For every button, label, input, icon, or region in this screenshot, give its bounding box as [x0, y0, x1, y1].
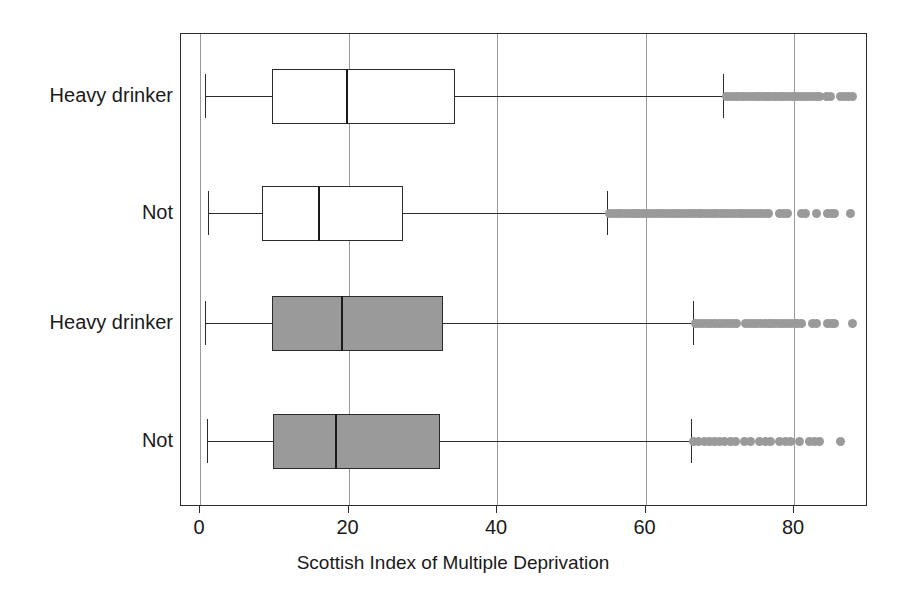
whisker-high-line [455, 96, 724, 97]
box-iqr [272, 296, 443, 351]
box-iqr [273, 414, 440, 469]
outlier-point [764, 209, 773, 218]
x-tick-20 [348, 506, 349, 513]
whisker-low-line [208, 213, 261, 214]
outlier-point [746, 437, 755, 446]
outlier-point [848, 319, 857, 328]
x-tick-label-40: 40 [466, 516, 526, 538]
median-line [318, 186, 320, 241]
outlier-point [815, 437, 824, 446]
category-label-heavy-drinker-2: Heavy drinker [50, 312, 173, 332]
median-line [335, 414, 337, 469]
gridline-0 [200, 34, 201, 505]
outlier-point [826, 92, 835, 101]
outlier-point [786, 437, 795, 446]
x-axis-title: Scottish Index of Multiple Deprivation [0, 552, 906, 574]
x-tick-40 [496, 506, 497, 513]
outlier-point [848, 92, 857, 101]
outlier-point [830, 209, 839, 218]
boxplot-figure: Heavy drinker Not Heavy drinker Not 0204… [0, 0, 906, 600]
box-iqr [272, 69, 455, 124]
outlier-point [846, 209, 855, 218]
whisker-low-cap [207, 419, 208, 463]
whisker-low-line [205, 96, 272, 97]
outlier-point [812, 209, 821, 218]
plot-area [180, 33, 867, 506]
category-label-not-1: Not [142, 202, 173, 222]
whisker-high-line [403, 213, 607, 214]
x-tick-80 [793, 506, 794, 513]
outlier-point [731, 437, 740, 446]
whisker-low-line [207, 441, 272, 442]
outlier-point [801, 209, 810, 218]
whisker-low-line [205, 323, 272, 324]
category-label-heavy-drinker-1: Heavy drinker [50, 85, 173, 105]
median-line [346, 69, 348, 124]
x-tick-label-80: 80 [763, 516, 823, 538]
whisker-low-cap [208, 191, 209, 235]
category-label-not-2: Not [142, 430, 173, 450]
gridline-40 [497, 34, 498, 505]
outlier-point [797, 319, 806, 328]
median-line [341, 296, 343, 351]
whisker-low-cap [205, 74, 206, 118]
whisker-high-line [443, 323, 693, 324]
outlier-point [795, 437, 804, 446]
x-tick-label-0: 0 [169, 516, 229, 538]
gridline-60 [646, 34, 647, 505]
outlier-point [812, 319, 821, 328]
x-tick-label-20: 20 [318, 516, 378, 538]
whisker-low-cap [205, 301, 206, 345]
outlier-point [732, 319, 741, 328]
whisker-high-line [440, 441, 691, 442]
outlier-point [836, 437, 845, 446]
x-tick-label-60: 60 [615, 516, 675, 538]
gridline-80 [794, 34, 795, 505]
outlier-point [766, 437, 775, 446]
x-tick-60 [645, 506, 646, 513]
x-tick-0 [199, 506, 200, 513]
outlier-point [830, 319, 839, 328]
outlier-point [783, 209, 792, 218]
box-iqr [262, 186, 403, 241]
